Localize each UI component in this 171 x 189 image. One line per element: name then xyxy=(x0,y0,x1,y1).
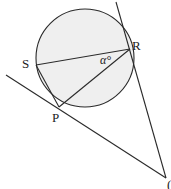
circle-tangent-diagram: S R P α° ( xyxy=(0,0,171,189)
label-s: S xyxy=(22,56,29,71)
label-alpha-angle: α° xyxy=(100,53,111,67)
label-r: R xyxy=(132,38,141,53)
tangent-line-r xyxy=(116,2,166,178)
label-bottom-right-partial: ( xyxy=(167,177,171,189)
label-p: P xyxy=(52,110,59,125)
